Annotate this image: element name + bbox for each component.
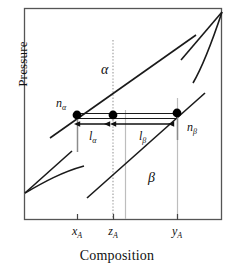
label-n-beta: nβ (187, 120, 197, 136)
tick-label-y-a: yA (157, 224, 197, 240)
tick-label-y-a-sub: A (177, 231, 182, 240)
upper-right-straight-line (181, 12, 222, 60)
tick-label-z-a-sub: A (113, 231, 118, 240)
upper-right-curve (193, 12, 222, 83)
beta-boundary-line (87, 93, 205, 198)
label-n-alpha: nα (56, 96, 66, 112)
alpha-boundary-line (50, 35, 196, 138)
label-l-beta: lβ (139, 129, 146, 145)
label-n-beta-sub: β (193, 127, 197, 136)
tick-label-x-a-sub: A (77, 231, 82, 240)
label-alpha-region: α (101, 62, 108, 78)
point-n-alpha (73, 111, 82, 120)
label-l-alpha: lα (89, 129, 97, 145)
point-z-a (109, 111, 118, 120)
label-n-alpha-sub: α (62, 103, 66, 112)
label-l-beta-sub: β (142, 136, 146, 145)
phase-diagram-figure: Pressure Composition xA zA yA nα nβ lα l… (0, 0, 234, 274)
tick-label-x-a: xA (57, 224, 97, 240)
point-n-beta (173, 109, 182, 118)
phase-boundaries (25, 12, 222, 198)
x-axis-label: Composition (0, 248, 234, 264)
tie-line-group (77, 114, 177, 119)
tick-label-z-a: zA (93, 224, 133, 240)
lower-left-lower-curve (25, 166, 84, 193)
label-beta-region: β (148, 170, 155, 186)
y-axis-label: Pressure (15, 19, 31, 109)
label-l-alpha-sub: α (92, 136, 96, 145)
